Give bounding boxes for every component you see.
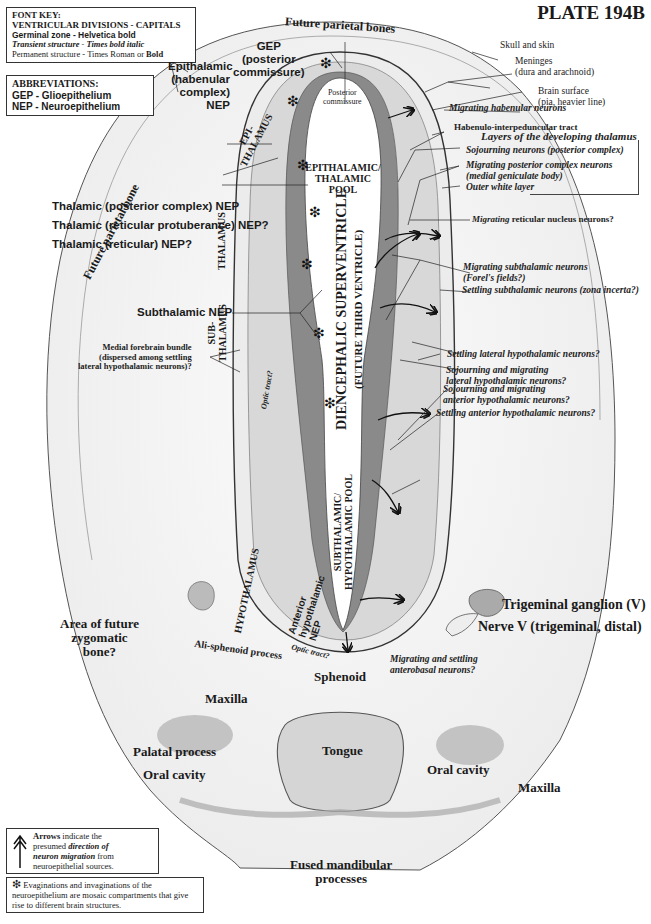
label-palatal-process: Palatal process <box>133 745 216 759</box>
label-diencephalic-superventricle: DIENCEPHALIC SUPERVENTRICLE (FUTURE THIR… <box>334 189 366 430</box>
label-thalamic-reticular-protuberance-nep: Thalamic (reticular protuberance) NEP? <box>52 219 269 232</box>
label-thalamic-reticular-nep: Thalamic (reticular) NEP? <box>52 238 192 251</box>
font-key-permanent: Permanent structure - Times Roman or Bol… <box>12 50 190 60</box>
svg-text:❇: ❇ <box>320 55 332 71</box>
label-sojourning-anterior-hypothalamic: Sojourning and migrating anterior hypoth… <box>443 384 570 406</box>
label-oral-cavity-right: Oral cavity <box>427 763 489 777</box>
label-meninges: Meninges (dura and arachnoid) <box>515 56 594 78</box>
label-settling-anterior-hypothalamic: Settling anterior hypothalamic neurons? <box>436 408 595 419</box>
label-thalamic-posterior-complex-nep: Thalamic (posterior complex) NEP <box>52 200 239 213</box>
label-oral-cavity-left: Oral cavity <box>143 768 205 782</box>
font-key-box: FONT KEY: VENTRICULAR DIVISIONS - CAPITA… <box>6 7 196 63</box>
legend-asterisk-box: ❇ Evaginations and invaginations of the … <box>6 877 204 913</box>
abbreviations-heading: ABBREVIATIONS: <box>12 78 148 90</box>
label-epithalamic-nep: Epithalamic (habenular complex) NEP <box>168 60 230 112</box>
tongue-shape <box>277 712 403 811</box>
abbrev-gep: GEP - Glioepithelium <box>12 90 148 102</box>
label-subthalamic-hypothalamic-pool: SUBTHALAMIC/ HYPOTHALAMIC POOL <box>332 474 354 590</box>
font-key-heading: FONT KEY: <box>12 10 190 20</box>
layers-bracket <box>530 140 639 195</box>
legend-arrows-box: Arrows indicate the presumed direction o… <box>6 828 159 874</box>
label-settling-subthalamic: Settling subthalamic neurons (zona incer… <box>462 285 639 296</box>
label-posterior-commissure: Posterior commissure <box>323 88 362 106</box>
label-gep-posterior-commissure: GEP (posterior commissure) <box>233 40 305 79</box>
label-thalamus: THALAMUS <box>216 212 227 270</box>
label-maxilla-left: Maxilla <box>205 692 248 706</box>
label-settling-lateral-hypothalamic: Settling lateral hypothalamic neurons? <box>447 349 600 360</box>
label-outer-white-layer: Outer white layer <box>466 182 534 193</box>
abbrev-nep: NEP - Neuroepithelium <box>12 101 148 113</box>
label-migrating-anterobasal: Migrating and settling anterobasal neuro… <box>390 654 478 676</box>
label-migrating-subthalamic: Migrating subthalamic neurons (Forel's f… <box>463 262 588 284</box>
label-medial-forebrain-bundle: Medial forebrain bundle (dispersed among… <box>78 343 192 372</box>
label-area-future-zygomatic: Area of future zygomatic bone? <box>60 617 139 659</box>
label-skull-and-skin: Skull and skin <box>500 40 554 51</box>
migration-arrow-icon <box>13 833 27 869</box>
svg-text:❇: ❇ <box>309 204 321 220</box>
abbreviations-box: ABBREVIATIONS: GEP - Glioepithelium NEP … <box>6 75 154 116</box>
svg-text:❇: ❇ <box>287 93 299 109</box>
label-nerve-v: Nerve V (trigeminal, distal) <box>478 620 642 634</box>
label-tongue: Tongue <box>322 744 363 758</box>
label-sphenoid: Sphenoid <box>314 670 366 684</box>
label-fused-mandibular-processes: Fused mandibular processes <box>290 858 392 886</box>
label-migrating-reticular-nucleus: Migrating reticular nucleus neurons? <box>472 214 614 225</box>
label-subthalamus: SUB- THALAMUS <box>206 304 228 362</box>
plate-title: PLATE 194B <box>537 6 645 20</box>
label-maxilla-right: Maxilla <box>518 781 561 795</box>
svg-text:❇: ❇ <box>301 256 313 272</box>
label-trigeminal-ganglion: Trigeminal ganglion (V) <box>502 598 646 612</box>
label-migrating-habenular-neurons: Migrating habenular neurons <box>449 103 566 114</box>
